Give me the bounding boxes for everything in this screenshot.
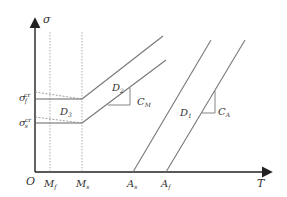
mf-label: Mf [44,179,56,190]
martensite-start-line [82,60,166,123]
slope-ca-label: CA [218,107,230,118]
y-axis-label: σ [43,14,51,25]
region-d1-label: D1 [180,108,192,119]
af-label: Af [161,179,170,190]
ms-label: Ms [76,179,89,190]
sigma-s-cr-label: σscr [19,117,31,129]
x-axis-label: T [257,178,264,189]
region-d2-label: D2 [112,83,124,94]
phase-diagram: σ T O σfcr σscr Mf Ms As Af D1 D2 D3 CM … [0,0,287,197]
as-label: As [127,179,137,190]
region-d3-label: D3 [60,107,72,118]
sigma-f-dashed [35,92,82,99]
sigma-f-cr-label: σfcr [19,92,30,104]
sigma-s-dashed [35,117,82,123]
origin-label: O [26,176,35,187]
slope-cm-label: CM [137,97,151,108]
austenite-finish-line [166,40,245,172]
